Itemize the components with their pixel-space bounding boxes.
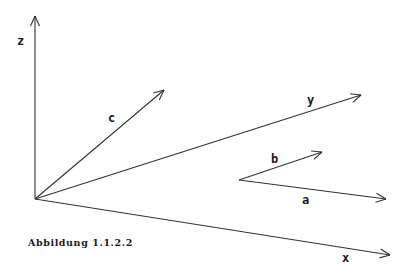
vector-diagram: z y x c b a Abbildung 1.1.2.2 <box>0 0 411 280</box>
vector-label-b: b <box>271 153 278 165</box>
axis-z-arrow <box>31 16 40 199</box>
vector-a-arrow <box>239 180 386 202</box>
vector-label-c: c <box>108 112 115 124</box>
vector-b-arrow <box>239 151 322 180</box>
axis-y-arrow <box>35 94 361 199</box>
vector-label-a: a <box>302 194 309 206</box>
vector-c-arrow <box>35 90 164 199</box>
axis-label-x: x <box>342 252 349 264</box>
figure-caption: Abbildung 1.1.2.2 <box>28 237 133 248</box>
axis-label-y: y <box>307 94 314 106</box>
axis-x-arrow <box>35 199 390 258</box>
axis-label-z: z <box>17 35 24 47</box>
